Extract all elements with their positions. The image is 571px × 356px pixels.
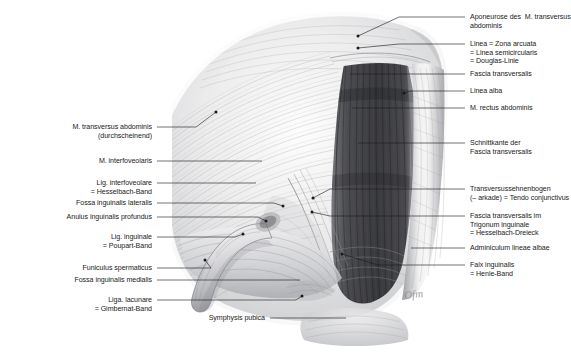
label-line: Aponeurose des M. transversus bbox=[470, 13, 571, 22]
label-line: Symphysis pubica bbox=[0, 314, 265, 323]
label-line: M. transversus abdominis bbox=[0, 123, 152, 132]
label-line: = Linea semicircularis bbox=[470, 49, 537, 58]
label-rectus-abdominis: M. rectus abdominis bbox=[470, 104, 533, 113]
label-line: = Douglas-Linie bbox=[470, 57, 537, 66]
label-schnittkante-fascia: Schnittkante derFascia transversalis bbox=[470, 139, 532, 156]
label-line: Linea alba bbox=[470, 87, 502, 96]
label-line: M. interfoveolaris bbox=[0, 157, 152, 166]
label-line: Fossa inguinalis lateralis bbox=[0, 199, 152, 208]
label-line: Schnittkante der bbox=[470, 139, 532, 148]
label-lig-inguinale: Lig. inguinale= Poupart-Band bbox=[0, 233, 152, 250]
label-line: (durchscheinend) bbox=[0, 132, 152, 141]
artist-signature: Ofm bbox=[403, 287, 423, 301]
label-transversussehnenbogen: Transversussehnenbogen(– arkade) = Tendo… bbox=[470, 185, 569, 202]
label-linea-arcuata: Linea = Zona arcuata= Linea semicircular… bbox=[470, 40, 537, 66]
label-line: = Hesselbach-Dreieck bbox=[470, 229, 541, 238]
label-line: = Poupart-Band bbox=[0, 242, 152, 251]
label-hesselbach-dreieck: Fascia transversalis imTrigonum inguinal… bbox=[470, 212, 541, 238]
label-line: Fossa inguinalis medialis bbox=[0, 276, 152, 285]
label-line: Fascia transversalis im bbox=[470, 212, 541, 221]
label-line: Funiculus spermaticus bbox=[0, 264, 152, 273]
label-symphysis-pubica: Symphysis pubica bbox=[0, 314, 265, 323]
label-line: = Gimbernat-Band bbox=[0, 305, 152, 314]
label-fossa-inguinalis-medialis: Fossa inguinalis medialis bbox=[0, 276, 152, 285]
label-line: Transversussehnenbogen bbox=[470, 185, 569, 194]
label-line: = Henle-Band bbox=[470, 270, 514, 279]
label-line: abdominis bbox=[470, 22, 571, 31]
label-falx-inguinalis: Falx inguinalis= Henle-Band bbox=[470, 261, 514, 278]
label-line: (– arkade) = Tendo conjunctivus bbox=[470, 194, 569, 203]
label-line: Falx inguinalis bbox=[470, 261, 514, 270]
label-line: Lig. interfoveolare bbox=[0, 179, 152, 188]
label-line: = Hesselbach-Band bbox=[0, 188, 152, 197]
symphysis-pubica bbox=[300, 308, 408, 346]
label-line: Fascia transversalis bbox=[470, 70, 532, 79]
label-line: Trigonum inguinale bbox=[470, 221, 541, 230]
label-fascia-transversalis: Fascia transversalis bbox=[470, 70, 532, 79]
label-linea-alba: Linea alba bbox=[470, 87, 502, 96]
label-liga-lacunare: Liga. lacunare= Gimbernat-Band bbox=[0, 296, 152, 313]
label-interfoveolaris: M. interfoveolaris bbox=[0, 157, 152, 166]
label-transversus-abdominis-durchscheinend: M. transversus abdominis(durchscheinend) bbox=[0, 123, 152, 140]
label-fossa-inguinalis-lateralis: Fossa inguinalis lateralis bbox=[0, 199, 152, 208]
label-funiculus-spermaticus: Funiculus spermaticus bbox=[0, 264, 152, 273]
label-line: Adminiculum lineae albae bbox=[470, 244, 550, 253]
label-adminiculum-lineae-albae: Adminiculum lineae albae bbox=[470, 244, 550, 253]
label-line: Anulus inguinalis profundus bbox=[0, 213, 152, 222]
label-aponeurose-transversus: Aponeurose des M. transversusabdominis bbox=[470, 13, 571, 30]
label-line: Liga. lacunare bbox=[0, 296, 152, 305]
label-line: M. rectus abdominis bbox=[470, 104, 533, 113]
label-lig-interfoveolare: Lig. interfoveolare= Hesselbach-Band bbox=[0, 179, 152, 196]
label-line: Fascia transversalis bbox=[470, 148, 532, 157]
label-line: Lig. inguinale bbox=[0, 233, 152, 242]
label-anulus-inguinalis-profundus: Anulus inguinalis profundus bbox=[0, 213, 152, 222]
label-line: Linea = Zona arcuata bbox=[470, 40, 537, 49]
